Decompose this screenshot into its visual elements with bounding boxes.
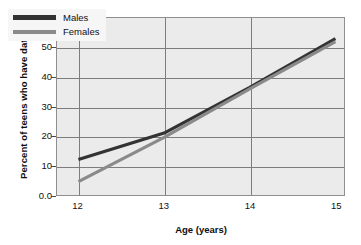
x-axis-tick-label: 15: [316, 200, 356, 211]
series-line-males: [78, 39, 335, 160]
x-axis-tick-label: 12: [58, 200, 98, 211]
x-axis-title: Age (years): [56, 224, 346, 235]
legend-swatch-males: [13, 15, 56, 20]
legend-item-males: Males: [13, 12, 99, 23]
chart-legend: MalesFemales: [8, 9, 106, 41]
y-axis-tick-label: 40: [12, 72, 52, 82]
plot-area: [56, 17, 345, 196]
y-axis-tick-label: 0.0: [12, 191, 52, 201]
y-axis-tick-label: 30: [12, 102, 52, 112]
series-lines: [57, 18, 344, 195]
y-axis-tick-mark: [51, 196, 56, 197]
legend-item-females: Females: [13, 26, 99, 37]
series-line-females: [78, 42, 335, 182]
legend-label: Males: [63, 13, 88, 23]
legend-swatch-females: [13, 30, 56, 34]
x-axis-tick-label: 14: [230, 200, 270, 211]
legend-label: Females: [63, 27, 99, 37]
y-axis-tick-label: 10: [12, 161, 52, 171]
y-axis-tick-label: 20: [12, 131, 52, 141]
line-chart: Percent of teens who have dated 0.010203…: [0, 0, 361, 245]
y-axis-tick-label: 50: [12, 42, 52, 52]
x-axis-tick-label: 13: [144, 200, 184, 211]
